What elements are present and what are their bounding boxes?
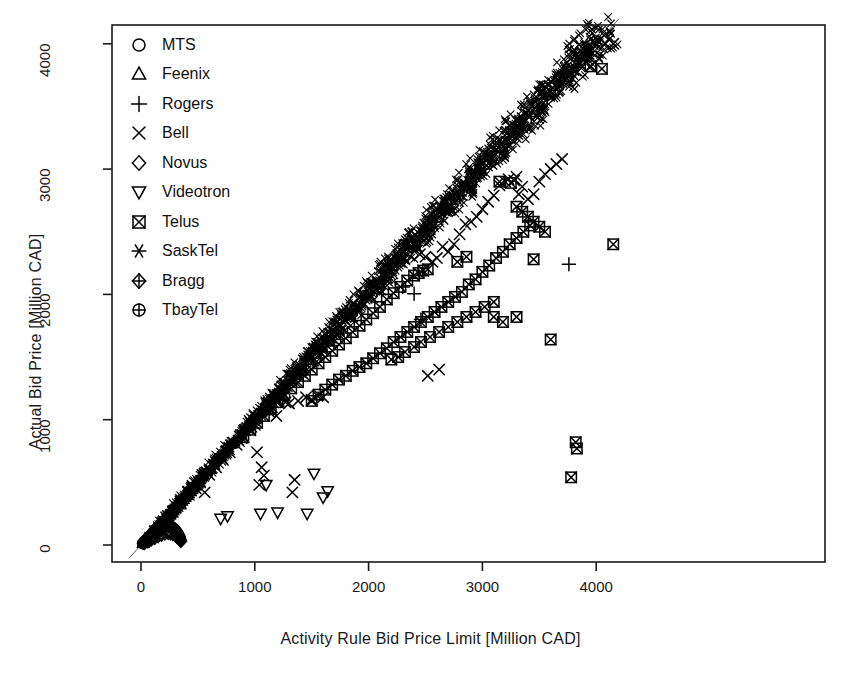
legend-item-rogers[interactable]: Rogers	[122, 89, 230, 119]
legend-item-bell[interactable]: Bell	[122, 119, 230, 149]
legend-item-tbaytel[interactable]: TbayTel	[122, 296, 230, 326]
x-tick-label: 2000	[352, 578, 385, 595]
series-telus	[238, 61, 618, 482]
diamond-plus-icon	[122, 268, 156, 294]
legend-label: SaskTel	[162, 242, 218, 260]
y-tick-label: 2000	[36, 294, 53, 338]
y-tick-label: 1000	[36, 419, 53, 463]
legend-label: MTS	[162, 36, 196, 54]
legend-item-telus[interactable]: Telus	[122, 207, 230, 237]
legend-label: Rogers	[162, 95, 214, 113]
circle-icon	[122, 32, 156, 58]
plus-icon	[122, 91, 156, 117]
legend-label: Novus	[162, 154, 207, 172]
legend-label: Bragg	[162, 272, 205, 290]
circle-plus-icon	[122, 297, 156, 323]
legend-item-mts[interactable]: MTS	[122, 30, 230, 60]
box-cross-icon	[122, 209, 156, 235]
legend-item-sasktel[interactable]: SaskTel	[122, 237, 230, 267]
legend-label: Telus	[162, 213, 199, 231]
legend-label: TbayTel	[162, 301, 218, 319]
legend-label: Feenix	[162, 65, 210, 83]
legend: MTSFeenixRogersBellNovusVideotronTelusSa…	[122, 30, 230, 325]
y-tick-label: 3000	[36, 169, 53, 213]
triangle-down-icon	[122, 179, 156, 205]
x-tick-label: 1000	[238, 578, 271, 595]
x-tick-label: 0	[137, 578, 145, 595]
diamond-icon	[122, 150, 156, 176]
legend-item-bragg[interactable]: Bragg	[122, 266, 230, 296]
x-axis-title: Activity Rule Bid Price Limit [Million C…	[0, 630, 861, 648]
legend-item-novus[interactable]: Novus	[122, 148, 230, 178]
legend-label: Videotron	[162, 183, 230, 201]
y-tick-label: 4000	[36, 43, 53, 87]
x-tick-label: 3000	[466, 578, 499, 595]
asterisk-icon	[122, 238, 156, 264]
y-tick-label: 0	[36, 545, 53, 589]
triangle-up-icon	[122, 61, 156, 87]
legend-item-feenix[interactable]: Feenix	[122, 60, 230, 90]
chart-page: MTSFeenixRogersBellNovusVideotronTelusSa…	[0, 0, 861, 683]
legend-label: Bell	[162, 124, 189, 142]
cross-icon	[122, 120, 156, 146]
legend-item-videotron[interactable]: Videotron	[122, 178, 230, 208]
x-tick-label: 4000	[580, 578, 613, 595]
